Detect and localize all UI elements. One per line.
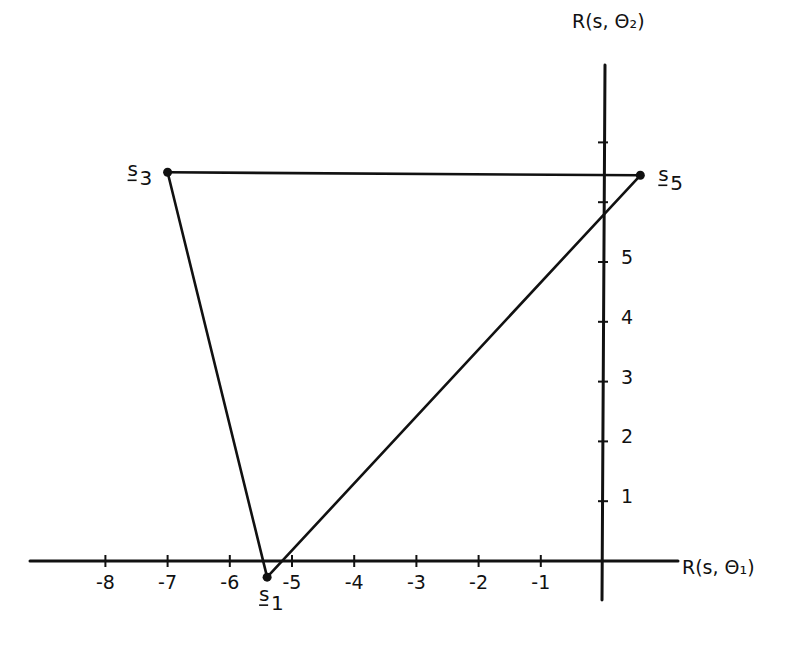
y-tick-label: 4 <box>621 306 633 328</box>
x-tick-label: -1 <box>531 571 550 593</box>
x-tick-label: -5 <box>283 571 302 593</box>
vertex-label-s1: s <box>259 582 269 606</box>
plot-canvas: -8-7-6-5-4-3-2-1 12345 s1s3s5 R(s, Θ₁) R… <box>0 0 791 648</box>
vertex-label-s5: s <box>658 162 668 186</box>
triangle-vertices: s1s3s5 <box>128 157 683 615</box>
triangle-edge <box>168 172 641 175</box>
vertex-subscript-s5: 5 <box>670 171 683 195</box>
triangle-edge <box>267 175 640 577</box>
y-tick-label: 5 <box>621 246 633 268</box>
triangle-diagram: -8-7-6-5-4-3-2-1 12345 s1s3s5 R(s, Θ₁) R… <box>0 0 791 648</box>
y-tick-label: 1 <box>621 485 633 507</box>
axes <box>30 65 678 600</box>
vertex-point-s5 <box>636 171 645 180</box>
vertex-point-s3 <box>163 168 172 177</box>
y-axis <box>602 65 605 600</box>
vertex-subscript-s3: 3 <box>140 166 153 190</box>
vertex-subscript-s1: 1 <box>271 591 284 615</box>
x-tick-label: -4 <box>345 571 364 593</box>
x-tick-label: -8 <box>96 571 115 593</box>
vertex-point-s1 <box>263 573 272 582</box>
y-axis-label: R(s, Θ₂) <box>572 10 645 32</box>
triangle-edges <box>168 172 641 577</box>
x-tick-label: -3 <box>407 571 426 593</box>
y-tick-label: 3 <box>621 366 633 388</box>
x-tick-label: -6 <box>220 571 239 593</box>
triangle-edge <box>168 172 268 577</box>
x-tick-label: -7 <box>158 571 177 593</box>
x-tick-label: -2 <box>469 571 488 593</box>
y-tick-label: 2 <box>621 425 633 447</box>
x-axis-label: R(s, Θ₁) <box>682 556 755 578</box>
vertex-label-s3: s <box>128 157 138 181</box>
